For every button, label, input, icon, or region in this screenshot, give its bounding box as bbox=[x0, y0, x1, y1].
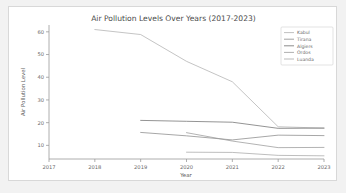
chart-title: Air Pollution Levels Over Years (2017-20… bbox=[91, 14, 256, 23]
y-tick-label: 30 bbox=[37, 97, 44, 103]
y-tick-label: 40 bbox=[37, 74, 44, 80]
series-line-tirana bbox=[141, 132, 324, 139]
legend-label-luanda: Luanda bbox=[297, 57, 314, 62]
x-tick-group: 2017201820192020202120222023 bbox=[42, 159, 330, 170]
y-tick-group: 102030405060 bbox=[37, 29, 49, 149]
legend-label-algiers: Algiers bbox=[297, 44, 313, 49]
y-tick-label: 60 bbox=[37, 29, 44, 35]
x-axis: 2017201820192020202120222023 Year bbox=[42, 159, 330, 178]
x-tick-label: 2019 bbox=[134, 164, 147, 170]
series-line-ordos bbox=[187, 133, 325, 148]
y-tick-label: 50 bbox=[37, 51, 44, 57]
x-tick-label: 2020 bbox=[180, 164, 193, 170]
x-tick-label: 2023 bbox=[317, 164, 330, 170]
legend-label-ordos: Ordos bbox=[297, 50, 311, 55]
y-tick-label: 10 bbox=[37, 142, 44, 148]
x-tick-label: 2022 bbox=[272, 164, 285, 170]
chart-figure: Air Pollution Levels Over Years (2017-20… bbox=[8, 6, 337, 181]
screenshot-root: Air Pollution Levels Over Years (2017-20… bbox=[0, 0, 346, 193]
series-line-luanda bbox=[187, 152, 325, 156]
x-axis-label: Year bbox=[179, 172, 192, 178]
legend-label-kabul: Kabul bbox=[297, 30, 310, 35]
x-tick-label: 2021 bbox=[226, 164, 239, 170]
x-tick-label: 2017 bbox=[42, 164, 55, 170]
line-chart: Air Pollution Levels Over Years (2017-20… bbox=[9, 7, 338, 182]
legend-label-tirana: Tirana bbox=[296, 37, 312, 42]
x-tick-label: 2018 bbox=[88, 164, 101, 170]
y-axis: 102030405060 Air Pollution Level bbox=[20, 25, 49, 159]
y-tick-label: 20 bbox=[37, 120, 44, 126]
chart-legend: KabulTiranaAlgiersOrdosLuanda bbox=[281, 27, 333, 65]
y-axis-label: Air Pollution Level bbox=[20, 68, 26, 116]
